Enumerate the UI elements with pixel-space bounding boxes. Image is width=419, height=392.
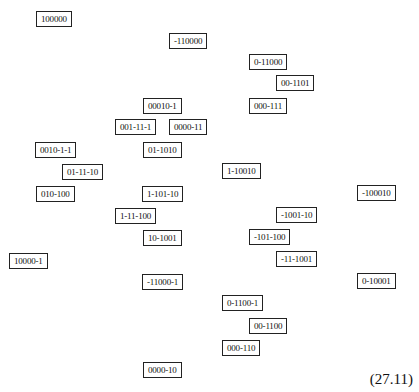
node-box: 0-1100-1 (222, 295, 263, 311)
node-box: 10-1001 (143, 230, 182, 246)
node-box: -1001-10 (276, 207, 317, 223)
equation-number: (27.11) (370, 371, 413, 388)
node-box: 0-10001 (357, 273, 396, 289)
node-box: 0000-11 (169, 119, 207, 135)
node-box: -100010 (357, 185, 396, 201)
node-box: 0000-10 (143, 362, 182, 378)
node-box: 01-11-10 (62, 164, 103, 180)
node-box: 100000 (36, 11, 72, 27)
node-box: 001-11-1 (115, 119, 156, 135)
node-box: -110000 (169, 33, 207, 49)
node-box: -101-100 (249, 229, 290, 245)
node-box: 000-110 (222, 340, 260, 356)
node-box: -11000-1 (142, 274, 183, 290)
node-box: 1-101-10 (142, 186, 183, 202)
node-box: 010-100 (36, 186, 75, 202)
node-box: 00-1101 (276, 75, 314, 91)
node-box: 00010-1 (143, 98, 182, 114)
node-box: 00-1100 (249, 318, 287, 334)
node-box: 0010-1-1 (35, 142, 76, 158)
node-box: 01-1010 (143, 142, 182, 158)
node-box: 10000-1 (9, 253, 48, 269)
node-box: 000-111 (249, 98, 287, 114)
node-box: 0-11000 (249, 54, 287, 70)
node-box: 1-10010 (222, 163, 261, 179)
node-box: 1-11-100 (115, 208, 156, 224)
node-box: -11-1001 (276, 251, 317, 267)
